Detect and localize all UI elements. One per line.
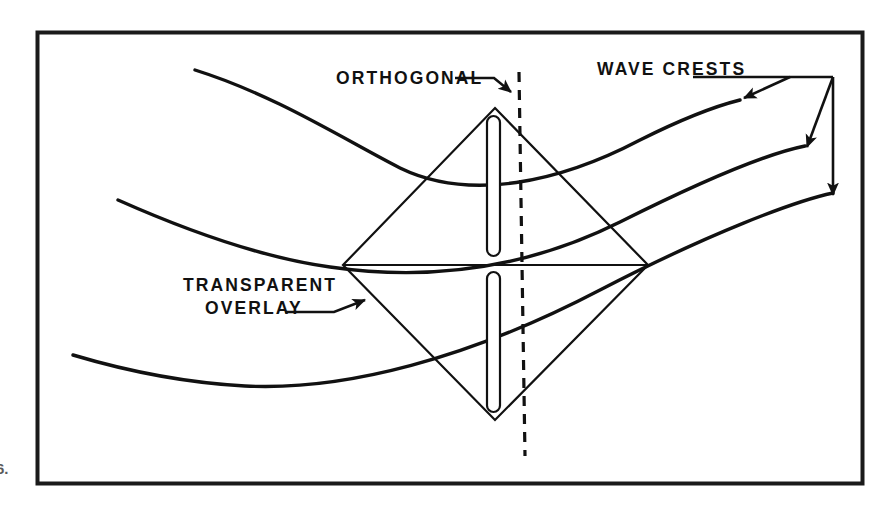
lower-slot [487,272,500,412]
upper-slot [487,116,500,256]
label-orthogonal: ORTHOGONAL [336,68,483,88]
wave-refraction-diagram: ORTHOGONAL WAVE CRESTS TRANSPARENT OVERL… [0,0,896,505]
margin-figure-number-artifact: 6. [0,460,9,477]
label-wave-crests: WAVE CRESTS [597,59,746,79]
figure-root: ORTHOGONAL WAVE CRESTS TRANSPARENT OVERL… [0,0,896,505]
label-transparent-overlay-line2: OVERLAY [205,298,303,318]
label-transparent-overlay-line1: TRANSPARENT [183,275,337,295]
